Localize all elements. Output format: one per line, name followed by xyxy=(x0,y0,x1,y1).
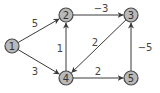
edge-weight-4-2: 1 xyxy=(57,43,63,54)
directed-graph: 53−3122−5 12345 xyxy=(0,0,160,93)
edge-weight-3-4: 2 xyxy=(92,37,98,48)
edge-weight-1-2: 5 xyxy=(32,18,38,29)
node-3: 3 xyxy=(124,8,138,22)
node-4: 4 xyxy=(59,71,73,85)
edge-1-2 xyxy=(18,19,59,43)
node-label: 5 xyxy=(128,73,134,84)
node-label: 4 xyxy=(63,73,69,84)
node-label: 1 xyxy=(9,41,15,52)
node-1: 1 xyxy=(5,39,19,53)
edge-1-4 xyxy=(18,50,60,75)
edge-weight-5-3: −5 xyxy=(138,42,153,53)
node-label: 3 xyxy=(128,10,134,21)
node-5: 5 xyxy=(124,71,138,85)
node-2: 2 xyxy=(59,8,73,22)
edge-weight-4-5: 2 xyxy=(95,66,101,77)
edge-weight-2-3: −3 xyxy=(94,3,109,14)
edge-weight-1-4: 3 xyxy=(32,66,38,77)
node-label: 2 xyxy=(63,10,69,21)
nodes: 12345 xyxy=(5,8,138,85)
